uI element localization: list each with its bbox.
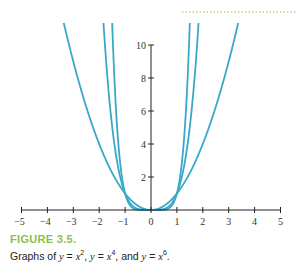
x-tick-label: 3 [226,216,231,227]
y-tick-label: 6 [141,106,146,117]
y-tick-label: 4 [141,139,146,150]
x-tick-label: −2 [92,216,103,227]
x-tick-label: 5 [278,216,283,227]
x-tick-label: −3 [66,216,77,227]
y-tick-label: 10 [136,40,146,51]
function-graph: −5−4−3−2−1012345246810 [0,0,296,230]
y-tick-label: 8 [141,73,146,84]
x-tick-label: −1 [118,216,129,227]
x-tick-label: 2 [200,216,205,227]
y-tick-label: 2 [141,172,146,183]
figure-description: Graphs of y = x2, y = x4, and y = x6. [10,246,170,263]
x-tick-label: 4 [252,216,257,227]
x-tick-label: 0 [149,216,154,227]
figure-caption: FIGURE 3.5. Graphs of y = x2, y = x4, an… [10,233,170,263]
axes: −5−4−3−2−1012345246810 [14,40,283,228]
x-tick-label: −4 [40,216,51,227]
x-tick-label: −5 [14,216,25,227]
figure-label: FIGURE 3.5. [10,233,170,246]
x-tick-label: 1 [174,216,179,227]
